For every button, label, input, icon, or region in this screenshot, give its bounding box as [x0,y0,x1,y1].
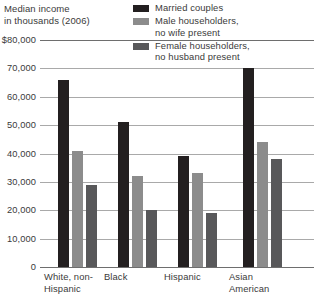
y-axis-labels: $80,00070,00060,00050,00040,00030,00020,… [0,40,36,267]
gridline [40,267,314,268]
chart-title-line-1: Median income [4,3,70,14]
x-axis-tick-label: Black [104,271,127,283]
bar-group [118,40,157,267]
bar-groups [40,40,314,267]
plot-area [40,40,314,267]
legend-swatch-icon [133,18,149,25]
x-axis-tick-label: White, non- Hispanic [44,271,93,295]
y-axis-tick-label: 0 [31,262,36,272]
y-axis-tick-label: 40,000 [7,149,36,159]
bar [146,210,157,267]
chart-title: Median income in thousands (2006) [4,3,128,27]
legend-item-label: Male householders, no wife present [155,15,239,38]
y-axis-tick-label: 10,000 [7,234,36,244]
bar [72,151,83,267]
y-axis-tick-label: 70,000 [7,63,36,73]
y-axis-tick-label: $80,000 [2,35,36,45]
x-axis-labels: White, non- HispanicBlackHispanicAsian A… [40,271,314,305]
chart-title-line-2: in thousands (2006) [4,15,128,27]
bar-group [178,40,217,267]
y-axis-tick-label: 50,000 [7,120,36,130]
legend-swatch-icon [133,5,149,12]
bar [206,213,217,267]
legend-item-label: Married couples [155,2,223,14]
y-axis-tick-label: 30,000 [7,177,36,187]
bar [118,122,129,267]
bar [86,185,97,267]
bar [58,80,69,267]
legend-item: Married couples [133,2,311,14]
y-axis-tick-label: 20,000 [7,205,36,215]
x-axis-tick-label: Asian American [229,271,269,295]
bar-group [243,40,282,267]
median-income-bar-chart: Median income in thousands (2006) Marrie… [0,0,314,307]
bar [257,142,268,267]
bar [178,156,189,267]
x-axis-tick-label: Hispanic [164,271,201,283]
bar [243,68,254,267]
bar [132,176,143,267]
y-axis-tick-label: 60,000 [7,92,36,102]
bar-group [58,40,97,267]
bar [271,159,282,267]
legend-item: Male householders, no wife present [133,15,311,38]
bar [192,173,203,267]
